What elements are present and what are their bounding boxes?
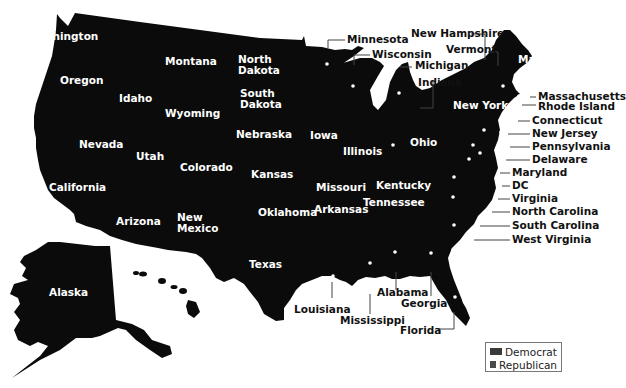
- state-label-ohio: Ohio: [410, 137, 437, 148]
- state-label-georgia: Georgia: [401, 298, 447, 309]
- state-label-west-virginia: West Virginia: [512, 234, 591, 245]
- state-label-delaware: Delaware: [532, 154, 588, 165]
- state-label-texas: Texas: [249, 259, 282, 270]
- state-label-oklahoma: Oklahoma: [258, 207, 317, 218]
- state-label-iowa: Iowa: [310, 130, 338, 141]
- state-label-dc: DC: [512, 180, 528, 191]
- state-label-tennessee: Tennessee: [363, 197, 425, 208]
- state-label-nebraska: Nebraska: [236, 129, 292, 140]
- state-label-michigan: Michigan: [415, 60, 468, 71]
- state-label-kansas: Kansas: [251, 169, 293, 180]
- state-label-connecticut: Connecticut: [532, 115, 603, 126]
- state-label-new-jersey: New Jersey: [532, 128, 598, 139]
- state-label-utah: Utah: [136, 151, 164, 162]
- state-label-florida: Florida: [400, 325, 441, 336]
- state-label-washington: Washington: [28, 31, 98, 42]
- legend-label: Republican: [499, 359, 557, 371]
- state-label-alaska: Alaska: [49, 287, 88, 298]
- state-label-maryland: Maryland: [512, 167, 567, 178]
- state-label-illinois: Illinois: [343, 146, 382, 157]
- state-label-colorado: Colorado: [180, 162, 233, 173]
- democrat-swatch: [490, 348, 502, 355]
- republican-swatch: [490, 361, 496, 368]
- state-label-minnesota: Minnesota: [347, 34, 409, 45]
- state-label-missouri: Missouri: [316, 182, 366, 193]
- state-label-vermont: Vermont: [446, 44, 497, 55]
- state-label-mississippi: Mississippi: [340, 315, 405, 326]
- state-label-new-hampshire: New Hampshire: [411, 28, 504, 39]
- state-label-california: California: [49, 182, 106, 193]
- state-label-arkansas: Arkansas: [314, 204, 368, 215]
- state-label-new-mexico: NewMexico: [177, 212, 218, 234]
- legend-label: Democrat: [505, 346, 557, 358]
- state-label-kentucky: Kentucky: [376, 180, 431, 191]
- legend: Democrat Republican: [485, 342, 562, 372]
- state-label-north-carolina: North Carolina: [512, 206, 598, 217]
- state-label-oregon: Oregon: [60, 75, 103, 86]
- state-label-wyoming: Wyoming: [165, 108, 220, 119]
- state-label-hawaii: Hawaii: [145, 305, 185, 316]
- state-label-new-york: New York: [453, 100, 508, 111]
- state-label-south-carolina: South Carolina: [512, 220, 599, 231]
- state-label-montana: Montana: [165, 56, 217, 67]
- state-label-north-dakota: NorthDakota: [238, 54, 280, 76]
- state-label-virginia: Virginia: [512, 193, 558, 204]
- state-label-pennsylvania: Pennsylvania: [532, 141, 611, 152]
- state-label-idaho: Idaho: [119, 93, 152, 104]
- state-label-nevada: Nevada: [79, 139, 123, 150]
- legend-item-republican: Republican: [490, 358, 557, 371]
- legend-item-democrat: Democrat: [490, 345, 557, 358]
- state-label-south-dakota: SouthDakota: [240, 88, 282, 110]
- state-label-maine: Maine: [518, 54, 554, 65]
- state-label-indiana: Indiana: [418, 77, 462, 88]
- state-label-rhode-island: Rhode Island: [538, 101, 615, 112]
- state-label-arizona: Arizona: [116, 216, 161, 227]
